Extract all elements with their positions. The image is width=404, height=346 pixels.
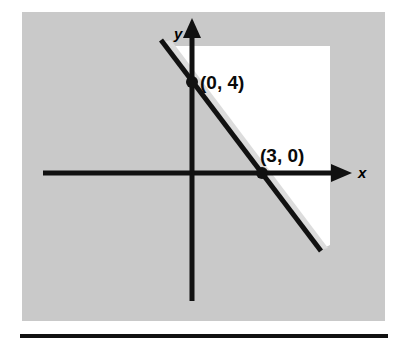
x-intercept-label: (3, 0) xyxy=(260,146,304,165)
x-axis-arrowhead xyxy=(331,164,352,182)
y-axis-label: y xyxy=(174,26,182,41)
y-intercept-point xyxy=(186,76,198,88)
y-axis-arrowhead xyxy=(183,18,201,38)
bottom-divider-rule xyxy=(20,334,388,338)
graph-panel: x y (0, 4) (3, 0) xyxy=(22,12,385,321)
x-intercept-point xyxy=(256,167,268,179)
y-intercept-label: (0, 4) xyxy=(200,73,244,92)
coordinate-plane-svg xyxy=(22,12,385,321)
graph-figure: x y (0, 4) (3, 0) xyxy=(0,0,404,346)
x-axis-label: x xyxy=(358,165,366,180)
